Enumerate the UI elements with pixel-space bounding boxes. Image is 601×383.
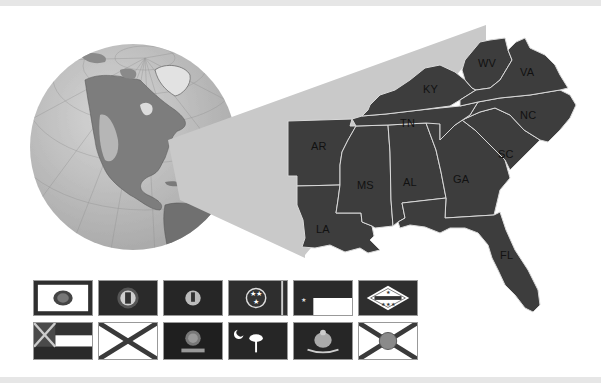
- flag-north-carolina: ★: [293, 280, 353, 316]
- label-ga: GA: [453, 173, 469, 185]
- label-ar: AR: [311, 140, 327, 152]
- svg-text:★: ★: [301, 297, 306, 303]
- flag-south-carolina: [228, 322, 288, 360]
- label-nc: NC: [520, 109, 536, 121]
- label-ms: MS: [357, 179, 374, 191]
- label-la: LA: [316, 223, 330, 235]
- label-fl: FL: [500, 249, 513, 261]
- flag-arkansas: ★★ ★ ★: [358, 280, 418, 316]
- flag-florida: [358, 322, 418, 360]
- label-tn: TN: [400, 117, 415, 129]
- flag-virginia: [163, 280, 223, 316]
- flag-mississippi: [33, 322, 93, 360]
- flag-west-virginia: [33, 280, 93, 316]
- flag-tennessee: ★★★: [228, 280, 288, 316]
- flag-kentucky: [98, 280, 158, 316]
- svg-text:★★: ★★: [250, 290, 262, 297]
- svg-text:★ ★ ★: ★ ★ ★: [381, 303, 397, 308]
- flag-louisiana: [293, 322, 353, 360]
- flag-alabama: [98, 322, 158, 360]
- label-sc: SC: [498, 148, 514, 160]
- bottom-frame-bar: [0, 377, 601, 383]
- state-flags-grid: ★★★ ★ ★★ ★ ★: [33, 280, 418, 360]
- svg-text:★: ★: [253, 298, 259, 305]
- label-va: VA: [520, 66, 534, 78]
- label-wv: WV: [478, 57, 496, 69]
- label-al: AL: [403, 176, 417, 188]
- label-ky: KY: [423, 83, 438, 95]
- flag-georgia: [163, 322, 223, 360]
